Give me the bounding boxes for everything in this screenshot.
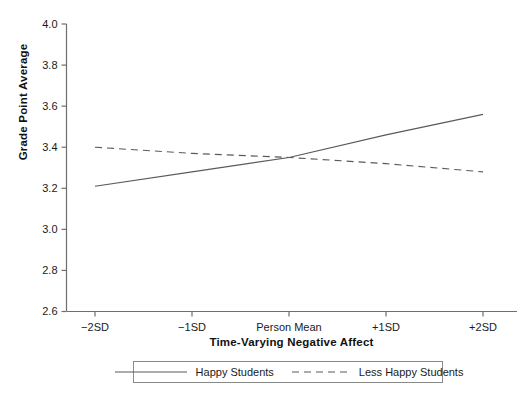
- x-tick-label: +2SD: [469, 322, 497, 333]
- legend-solid-line-icon: [113, 367, 189, 377]
- y-tick-label: 3.6: [24, 101, 58, 112]
- legend-entry-less-happy-students: Less Happy Students: [290, 366, 464, 378]
- series-line-less-happy-students: [95, 147, 483, 172]
- y-tick-label: 3.0: [24, 224, 58, 235]
- y-tick-label: 3.2: [24, 183, 58, 194]
- chart-legend: Happy Students Less Happy Students: [133, 361, 443, 383]
- chart-figure: Grade Point Average 2.62.83.03.23.43.63.…: [0, 0, 527, 402]
- x-tick-label: Person Mean: [256, 322, 321, 333]
- y-tick-label: 2.8: [24, 265, 58, 276]
- y-tick-label: 3.8: [24, 60, 58, 71]
- x-axis-ticks: [95, 312, 483, 317]
- legend-entry-happy-students: Happy Students: [113, 366, 274, 378]
- x-tick-label: −1SD: [178, 322, 206, 333]
- x-axis-label: Time-Varying Negative Affect: [66, 336, 517, 348]
- legend-label-less-happy-students: Less Happy Students: [359, 366, 464, 378]
- y-axis-ticks: [62, 24, 67, 312]
- y-tick-label: 4.0: [24, 19, 58, 30]
- x-tick-label: −2SD: [81, 322, 109, 333]
- y-tick-label: 2.6: [24, 306, 58, 317]
- y-tick-label: 3.4: [24, 142, 58, 153]
- data-series-group: [95, 114, 483, 186]
- legend-label-happy-students: Happy Students: [196, 366, 274, 378]
- x-tick-label: +1SD: [372, 322, 400, 333]
- legend-dashed-line-icon: [290, 367, 352, 377]
- series-line-happy-students: [95, 114, 483, 186]
